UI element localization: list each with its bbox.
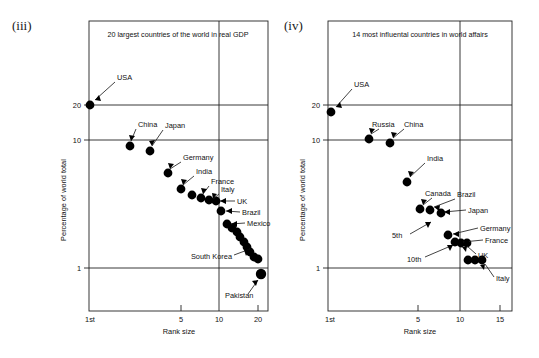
label-italy: Italy	[221, 185, 235, 194]
data-point	[365, 135, 374, 144]
panel-iii: 20 largest countries of the world in rea…	[59, 21, 270, 336]
data-point	[256, 269, 266, 279]
chart-title-right: 14 most influental countries in world af…	[352, 30, 488, 39]
label-brazil: Brazil	[242, 208, 261, 217]
label-5th: 5th	[392, 231, 402, 240]
leader-brazil	[434, 199, 455, 207]
leader-lines-right	[336, 89, 494, 277]
arrowhead-uk	[462, 246, 467, 252]
leader-uk	[467, 246, 476, 254]
data-point	[188, 191, 197, 200]
xaxis-title-right: Rank size	[404, 327, 436, 336]
yaxis-title-left: Percentage of world total	[59, 159, 68, 241]
data-point	[327, 108, 336, 117]
ytick-label-right-1: 1	[316, 264, 320, 273]
xtick-label-right-1st: 1st	[325, 315, 335, 324]
label-france: France	[485, 236, 508, 245]
point-labels-left: USA China Japan Germany India France Ita…	[117, 73, 270, 300]
label-south-korea: South Korea	[191, 252, 233, 261]
xtick-label-right-5: 5	[416, 315, 420, 324]
data-point	[217, 207, 226, 216]
arrowhead-germany	[453, 231, 459, 237]
label-uk: UK	[237, 197, 247, 206]
data-point	[177, 185, 186, 194]
xtick-label-right-15: 15	[496, 315, 504, 324]
leader-italy	[485, 264, 494, 277]
data-point	[254, 255, 263, 264]
label-usa: USA	[117, 73, 132, 82]
arrowhead-italy	[480, 264, 485, 270]
xtick-label-left-10: 10	[215, 315, 223, 324]
ytick-label-left-10: 10	[73, 136, 81, 145]
data-point	[86, 101, 95, 110]
data-points-right	[327, 108, 487, 265]
ytick-label-right-20: 20	[312, 101, 320, 110]
label-uk: UK	[478, 251, 488, 260]
data-point	[197, 194, 206, 203]
label-india: India	[196, 167, 213, 176]
data-point	[444, 231, 453, 240]
panel-tag-iv: (iv)	[284, 18, 303, 34]
label-canada: Canada	[425, 189, 452, 198]
data-point	[164, 169, 173, 178]
label-mexico: Mexico	[247, 219, 270, 228]
label-germany: Germany	[183, 153, 214, 162]
yaxis-title-right: Percentage of world total	[298, 159, 307, 241]
label-pakistan: Pakistan	[225, 291, 253, 300]
label-10th: 10th	[407, 255, 421, 264]
arrowhead-uk	[220, 198, 226, 204]
label-india: India	[427, 154, 444, 163]
leader-india	[410, 163, 425, 177]
label-russia: Russia	[372, 120, 395, 129]
label-italy: Italy	[496, 274, 510, 283]
data-point	[416, 205, 425, 214]
label-japan: Japan	[165, 121, 185, 130]
ytick-label-left-20: 20	[73, 101, 81, 110]
label-china: China	[138, 120, 158, 129]
data-point	[403, 178, 412, 187]
label-germany: Germany	[480, 224, 511, 233]
chart-frame-left	[89, 21, 268, 311]
xtick-label-left-5: 5	[179, 315, 183, 324]
leader-japan	[152, 130, 163, 146]
panel-iv: 14 most influental countries in world af…	[298, 21, 512, 336]
xtick-label-left-20: 20	[254, 315, 262, 324]
xaxis-title-left: Rank size	[163, 327, 195, 336]
point-labels-right: USA Russia China India Canada Brazil Jap…	[354, 80, 511, 283]
data-point	[426, 206, 435, 215]
xtick-label-left-1st: 1st	[85, 315, 95, 324]
arrowhead-pakistan	[252, 280, 258, 286]
figure-container: (iii) (iv) 20 largest countries of the w…	[0, 0, 539, 358]
data-point	[386, 139, 395, 148]
data-point	[126, 142, 135, 151]
data-point	[146, 147, 155, 156]
arrowhead-brazil	[226, 208, 232, 214]
scatter-plots-svg: 20 largest countries of the world in rea…	[0, 0, 539, 358]
ytick-label-left-1: 1	[77, 264, 81, 273]
label-japan: Japan	[468, 206, 488, 215]
ytick-label-right-10: 10	[312, 136, 320, 145]
chart-title-left: 20 largest countries of the world in rea…	[107, 30, 248, 39]
label-china: China	[404, 120, 424, 129]
panel-tag-iii: (iii)	[12, 18, 32, 34]
label-usa: USA	[354, 80, 369, 89]
label-brazil: Brazil	[457, 190, 476, 199]
arrowhead-10th	[447, 245, 453, 251]
xtick-label-right-10: 10	[456, 315, 464, 324]
